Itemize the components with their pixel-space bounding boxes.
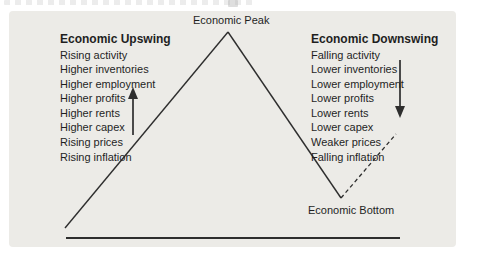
peak-label: Economic Peak xyxy=(193,14,269,26)
business-cycle-figure: Economic Peak Economic Upswing Rising ac… xyxy=(0,0,488,257)
bottom-label: Economic Bottom xyxy=(308,204,394,216)
upswing-title: Economic Upswing xyxy=(60,32,171,47)
upswing-item: Higher profits xyxy=(60,91,171,106)
downswing-title: Economic Downswing xyxy=(311,32,438,47)
downswing-item: Lower capex xyxy=(311,120,438,135)
upswing-item: Rising inflation xyxy=(60,150,171,165)
downswing-item: Lower employment xyxy=(311,77,438,92)
downswing-item: Falling activity xyxy=(311,48,438,63)
upswing-item: Higher capex xyxy=(60,120,171,135)
upswing-block: Economic Upswing Rising activity Higher … xyxy=(60,32,171,164)
upswing-item: Rising prices xyxy=(60,135,171,150)
upswing-item: Rising activity xyxy=(60,48,171,63)
downswing-item: Falling inflation xyxy=(311,150,438,165)
upswing-item: Higher rents xyxy=(60,106,171,121)
downswing-item: Weaker prices xyxy=(311,135,438,150)
upswing-item: Higher employment xyxy=(60,77,171,92)
downswing-item: Lower profits xyxy=(311,91,438,106)
downswing-item: Lower inventories xyxy=(311,62,438,77)
downswing-item: Lower rents xyxy=(311,106,438,121)
downswing-block: Economic Downswing Falling activity Lowe… xyxy=(311,32,438,164)
upswing-item: Higher inventories xyxy=(60,62,171,77)
